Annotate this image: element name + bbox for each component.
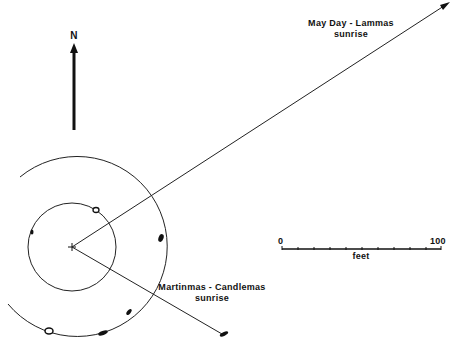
stone (31, 230, 34, 235)
scale-min-label: 0 (278, 236, 288, 247)
stone (98, 329, 109, 336)
stone (93, 208, 99, 213)
may-day-lammas-label: May Day - Lammas sunrise (296, 18, 406, 40)
scale-unit-label: feet (346, 251, 376, 262)
stone (219, 330, 229, 337)
may-day-lammas-label-line2: sunrise (296, 29, 406, 40)
stone (45, 328, 53, 334)
stones (31, 208, 229, 338)
north-arrow-icon (70, 43, 78, 130)
outer-stone-arc (8, 156, 167, 336)
north-label: N (68, 30, 80, 41)
martinmas-candlemas-label-line1: Martinmas - Candlemas (152, 282, 272, 293)
martinmas-candlemas-label: Martinmas - Candlemas sunrise (152, 282, 272, 304)
scale-bar (282, 246, 441, 250)
stone (157, 233, 164, 242)
martinmas-candlemas-label-line2: sunrise (152, 293, 272, 304)
stone (125, 308, 132, 316)
may-day-lammas-label-line1: May Day - Lammas (296, 18, 406, 29)
scale-max-label: 100 (430, 236, 454, 247)
